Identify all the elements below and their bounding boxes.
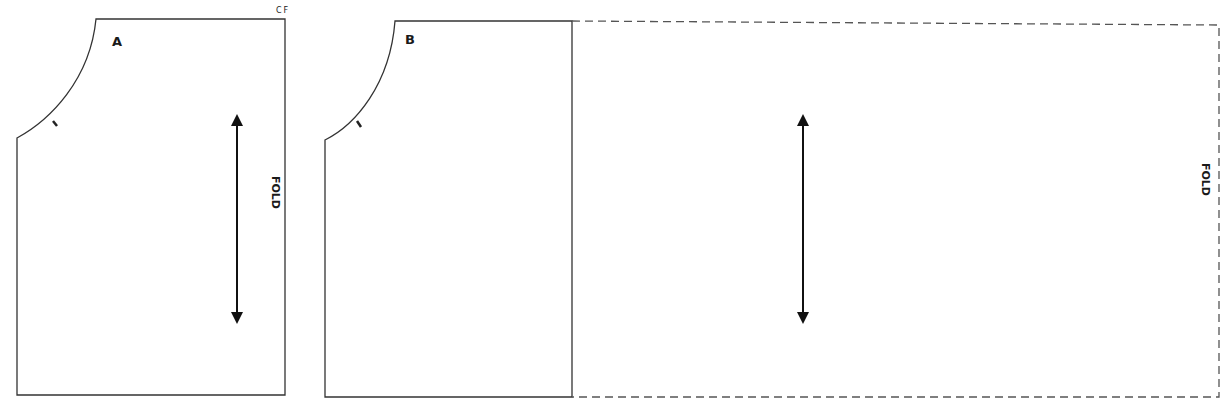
pattern-piece-a: A CF FOLD xyxy=(17,6,290,395)
piece-b-label: B xyxy=(405,32,415,47)
piece-b-notch xyxy=(357,121,361,127)
piece-a-outline xyxy=(17,19,285,395)
pattern-piece-b: B FOLD xyxy=(325,21,1219,397)
pattern-diagram: A CF FOLD B FOLD xyxy=(0,0,1227,405)
grainline-arrow-a-icon xyxy=(231,114,243,324)
piece-a-label: A xyxy=(112,34,122,49)
piece-b-outline xyxy=(325,21,572,397)
piece-a-fold-label: FOLD xyxy=(269,176,282,209)
piece-b-dashed-extension xyxy=(572,21,1219,397)
grainline-arrow-b-icon xyxy=(797,114,809,324)
piece-b-fold-label: FOLD xyxy=(1199,163,1212,196)
piece-a-notch xyxy=(53,121,57,126)
center-front-label: CF xyxy=(276,6,290,15)
